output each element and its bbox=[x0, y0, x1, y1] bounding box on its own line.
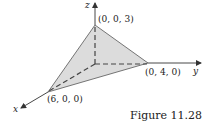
figure-caption: Figure 11.28 bbox=[130, 110, 202, 121]
plane-intercepts-figure: z (0, 0, 3) (0, 4, 0) y (6, 0, 0) x Figu… bbox=[0, 0, 212, 123]
z-axis-label: z bbox=[85, 1, 90, 10]
x-intercept-label: (6, 0, 0) bbox=[47, 95, 83, 104]
x-axis-label: x bbox=[13, 105, 18, 114]
y-intercept-label: (0, 4, 0) bbox=[145, 68, 181, 77]
z-intercept-label: (0, 0, 3) bbox=[98, 15, 134, 24]
plane-triangle bbox=[48, 25, 148, 92]
y-axis-label: y bbox=[193, 67, 198, 76]
x-axis bbox=[21, 92, 48, 108]
